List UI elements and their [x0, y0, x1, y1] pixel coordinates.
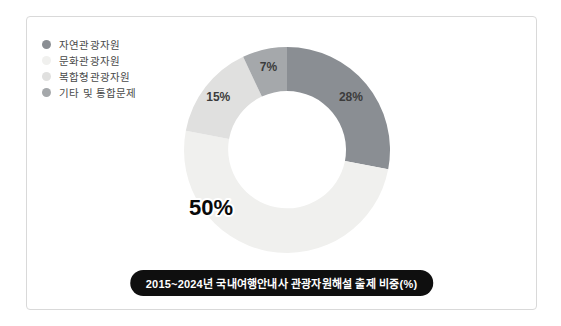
legend-label: 자연관광자원 [59, 37, 120, 52]
slice-percent-label: 50% [189, 195, 233, 220]
legend-bullet-icon [42, 72, 51, 81]
legend-item: 자연관광자원 [42, 36, 137, 52]
legend-bullet-icon [42, 88, 51, 97]
legend-item: 복합형관광자원 [42, 68, 137, 84]
donut-slice-1 [287, 47, 390, 169]
chart-title: 2015~2024년 국내여행안내사 관광자원해설 출제 비중(%) [146, 278, 418, 290]
slice-percent-label: 7% [260, 60, 278, 74]
slice-percent-label: 28% [339, 90, 363, 104]
legend-bullet-icon [42, 40, 51, 49]
chart-card: 자연관광자원문화관광자원복합형관광자원기타 및 통합문제 28%50%15%7%… [26, 16, 537, 310]
legend-label: 복합형관광자원 [59, 69, 130, 84]
chart-title-pill: 2015~2024년 국내여행안내사 관광자원해설 출제 비중(%) [130, 270, 434, 296]
legend-label: 기타 및 통합문제 [59, 85, 137, 100]
donut-chart: 28%50%15%7% [177, 40, 397, 260]
legend-item: 기타 및 통합문제 [42, 84, 137, 100]
slice-percent-label: 15% [206, 90, 230, 104]
legend: 자연관광자원문화관광자원복합형관광자원기타 및 통합문제 [42, 36, 137, 100]
legend-bullet-icon [42, 56, 51, 65]
legend-item: 문화관광자원 [42, 52, 137, 68]
page: 자연관광자원문화관광자원복합형관광자원기타 및 통합문제 28%50%15%7%… [0, 0, 561, 326]
legend-label: 문화관광자원 [59, 53, 120, 68]
